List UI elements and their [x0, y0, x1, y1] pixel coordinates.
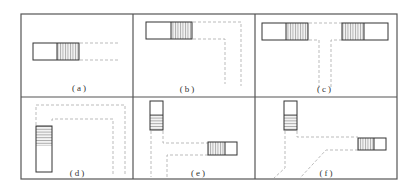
figure-diagram [0, 0, 414, 192]
panel-label-c: (c) [317, 84, 333, 94]
panel-b [146, 22, 241, 86]
panel-label-b: (b) [180, 84, 197, 94]
panel-a [33, 43, 118, 60]
panel-label-d: (d) [70, 168, 87, 178]
panel-label-f: (f) [320, 168, 335, 178]
panel-label-a: (a) [72, 83, 88, 93]
panel-c [262, 23, 388, 88]
panel-d [36, 105, 125, 176]
panel-f [274, 101, 386, 178]
panel-e [150, 101, 237, 177]
panel-label-e: (e) [191, 168, 207, 178]
